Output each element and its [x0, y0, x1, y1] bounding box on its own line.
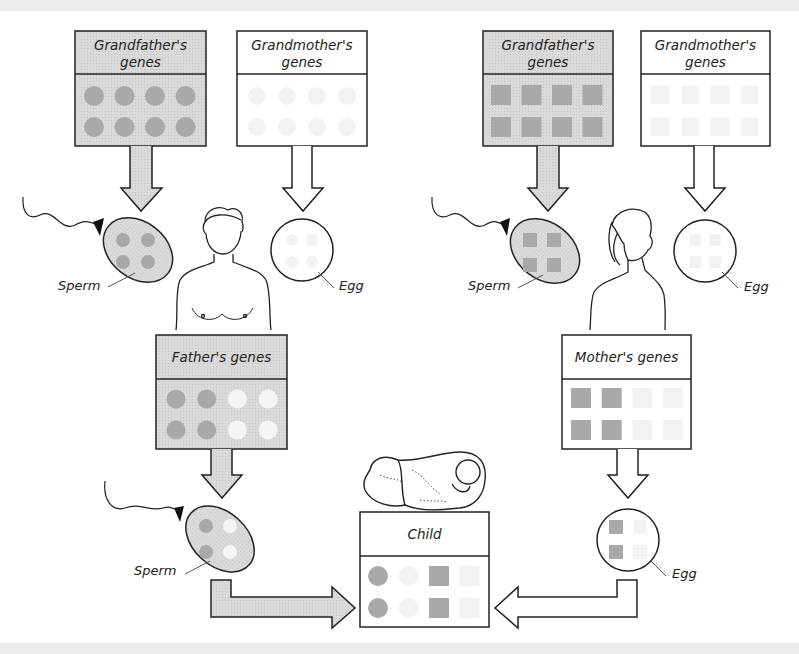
left-egg: Egg	[271, 219, 364, 293]
gene-circle-dark	[176, 117, 196, 137]
gene-circle-dark	[84, 117, 104, 137]
right-grandmother-title-line2: genes	[685, 54, 726, 70]
gene-square-dark	[429, 566, 449, 586]
gene-circle-ghost	[278, 87, 296, 105]
gene-circle-ghost	[278, 118, 296, 136]
gene-square-dark	[522, 117, 542, 137]
right-egg: Egg	[674, 220, 769, 294]
left-grandmother-box: Grandmother's genes	[237, 31, 367, 146]
gene-circle-ghost	[399, 598, 419, 618]
mother-egg-label: Egg	[672, 566, 697, 581]
gene-square-ghost	[709, 234, 721, 246]
gene-square-ghost	[709, 256, 721, 268]
mother-to-child-arrow	[495, 580, 637, 628]
gene-circle-dark	[145, 86, 165, 106]
gene-square-dark	[583, 117, 603, 137]
gene-circle-ghost	[399, 566, 419, 586]
gene-square-ghost	[689, 234, 701, 246]
gene-square-dark	[609, 520, 623, 534]
father-genes-box: Father's genes	[156, 335, 287, 449]
gene-square-dark	[552, 117, 572, 137]
mother-egg: Egg	[597, 509, 697, 581]
gene-square-dark	[491, 117, 511, 137]
gene-circle-dark	[167, 390, 186, 409]
gene-square-dark	[523, 258, 537, 272]
baby-figure-icon	[364, 452, 485, 510]
gene-square-ghost	[681, 118, 699, 136]
child-genes-box: Child	[360, 512, 489, 627]
gene-circle-dark	[167, 421, 186, 440]
gene-square-ghost	[741, 118, 759, 136]
left-grandmother-title-line1: Grandmother's	[251, 37, 352, 53]
gene-square-ghost	[460, 598, 480, 618]
right-grandfather-arrow	[528, 146, 568, 211]
father-sperm-label: Sperm	[134, 563, 177, 578]
right-sperm-label: Sperm	[468, 278, 511, 293]
right-grandfather-title-line1: Grandfather's	[502, 37, 595, 53]
gene-square-dark	[571, 388, 591, 408]
gene-square-ghost	[681, 86, 699, 104]
gene-square-ghost	[663, 420, 683, 440]
gene-square-ghost	[711, 86, 729, 104]
father-to-child-arrow	[211, 580, 355, 628]
right-grandmother-title-line1: Grandmother's	[655, 37, 756, 53]
sperm-tail-icon	[105, 481, 177, 510]
gene-square-dark	[429, 598, 449, 618]
gene-square-ghost	[663, 388, 683, 408]
gene-square-ghost	[632, 388, 652, 408]
right-sperm: Sperm	[432, 197, 592, 296]
gene-circle-dark	[115, 86, 135, 106]
gene-square-dark	[552, 85, 572, 105]
gene-circle-dark	[116, 255, 130, 269]
gene-circle-dark	[84, 86, 104, 106]
gene-square-dark	[491, 85, 511, 105]
left-grandfather-title-line2: genes	[120, 54, 161, 70]
left-grandfather-title-line1: Grandfather's	[94, 37, 187, 53]
gene-circle-ghost	[308, 87, 326, 105]
gene-square-ghost	[460, 566, 480, 586]
gene-circle-dark	[197, 390, 216, 409]
gene-circle-ghost	[338, 87, 356, 105]
left-grandfather-box: Grandfather's genes	[75, 31, 206, 146]
gene-circle-dark	[197, 421, 216, 440]
gene-circle-dark	[115, 117, 135, 137]
gene-circle-ghost	[286, 256, 298, 268]
gene-circle-ghost	[306, 256, 318, 268]
left-sperm-label: Sperm	[58, 278, 101, 293]
left-grandmother-title-line2: genes	[282, 54, 323, 70]
gene-circle-dark	[176, 86, 196, 106]
right-egg-label: Egg	[744, 279, 769, 294]
gene-circle-ghost	[248, 118, 266, 136]
mother-figure-icon	[590, 209, 665, 330]
right-grandmother-box: Grandmother's genes	[641, 31, 770, 146]
gene-circle-dark	[199, 519, 213, 533]
gene-circle-white	[223, 545, 237, 559]
gene-square-dark	[547, 233, 561, 247]
mother-genes-title: Mother's genes	[575, 349, 678, 365]
sperm-tail-icon	[432, 197, 503, 226]
gene-square-dark	[571, 420, 591, 440]
right-grandfather-box: Grandfather's genes	[483, 31, 613, 146]
gene-circle-white	[228, 390, 247, 409]
gene-circle-white	[223, 519, 237, 533]
gene-square-ghost	[651, 118, 669, 136]
gene-circle-white	[228, 421, 247, 440]
gene-square-ghost	[633, 545, 647, 559]
gene-circle-dark	[116, 233, 130, 247]
left-grandmother-arrow	[283, 146, 323, 211]
gene-square-dark	[547, 258, 561, 272]
gene-square-ghost	[632, 420, 652, 440]
gene-circle-ghost	[286, 234, 298, 246]
gene-circle-dark	[368, 566, 388, 586]
gene-square-dark	[523, 233, 537, 247]
gene-circle-dark	[145, 117, 165, 137]
gene-circle-white	[259, 390, 278, 409]
gene-square-dark	[522, 85, 542, 105]
gene-circle-dark	[199, 545, 213, 559]
father-figure-icon	[176, 208, 271, 330]
gene-square-ghost	[689, 256, 701, 268]
inheritance-diagram: Grandfather's genes Grandmother's genes …	[0, 0, 799, 654]
father-sperm: Sperm	[105, 481, 267, 585]
gene-square-ghost	[651, 86, 669, 104]
mother-genes-arrow	[608, 449, 648, 498]
